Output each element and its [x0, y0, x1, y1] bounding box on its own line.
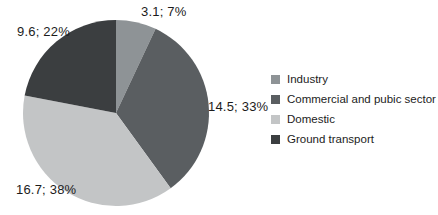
legend-swatch-ground-transport: [271, 135, 280, 144]
slice-label-commercial-and-pubic-sector: 14.5; 33%: [208, 99, 268, 114]
legend: Industry Commercial and pubic sector Dom…: [271, 74, 436, 144]
slice-label-domestic: 16.7; 38%: [16, 182, 76, 197]
legend-item-domestic: Domestic: [271, 114, 436, 124]
legend-label-commercial-and-pubic-sector: Commercial and pubic sector: [287, 93, 436, 105]
legend-label-domestic: Domestic: [287, 113, 335, 125]
pie-chart-figure: 3.1; 7% 14.5; 33% 16.7; 38% 9.6; 22% Ind…: [0, 0, 438, 215]
legend-swatch-industry: [271, 75, 280, 84]
legend-item-industry: Industry: [271, 74, 436, 84]
legend-swatch-domestic: [271, 115, 280, 124]
legend-swatch-commercial-and-pubic-sector: [271, 95, 280, 104]
slice-label-industry: 3.1; 7%: [141, 4, 187, 19]
legend-label-ground-transport: Ground transport: [287, 133, 374, 145]
legend-item-ground-transport: Ground transport: [271, 134, 436, 144]
slice-label-ground-transport: 9.6; 22%: [17, 24, 70, 39]
legend-item-commercial-and-pubic-sector: Commercial and pubic sector: [271, 94, 436, 104]
legend-label-industry: Industry: [287, 73, 328, 85]
